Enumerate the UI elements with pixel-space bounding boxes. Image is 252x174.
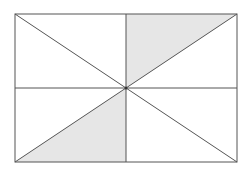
center-point bbox=[125, 87, 128, 90]
geometry-diagram bbox=[0, 0, 252, 174]
